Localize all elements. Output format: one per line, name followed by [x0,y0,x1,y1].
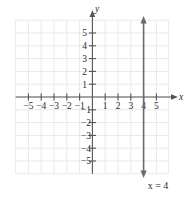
x-tick-label: −5 [23,101,33,111]
y-tick-label: 1 [82,80,87,90]
y-tick-label: −5 [81,156,91,166]
x-tick-label: 3 [128,101,133,111]
y-tick-label: −2 [81,118,91,128]
x-tick-label: 5 [154,101,159,111]
x-tick-label: −3 [49,101,59,111]
x-axis-label: x [178,92,184,102]
y-tick-label: 3 [82,54,87,64]
x-axis-tick-labels: −5 −4 −3 −2 −1 1 2 3 4 5 [23,101,159,111]
y-tick-label: 2 [82,67,87,77]
x-tick-label: −2 [62,101,72,111]
y-tick-label: 5 [82,28,87,38]
y-tick-label: −3 [81,131,91,141]
graph-canvas: −5 −4 −3 −2 −1 1 2 3 4 5 5 4 3 2 1 −1 −2… [0,0,189,198]
y-tick-label: −4 [81,144,91,154]
x-axis [16,94,178,100]
x-tick-label: 2 [116,101,121,111]
x-tick-label: −4 [36,101,46,111]
y-tick-label: −1 [81,105,91,115]
equation-label: x = 4 [148,180,169,191]
y-axis-label: y [94,4,100,14]
x-tick-label: 1 [103,101,108,111]
y-tick-label: 4 [82,41,87,51]
coordinate-plane-figure: −5 −4 −3 −2 −1 1 2 3 4 5 5 4 3 2 1 −1 −2… [0,0,189,198]
